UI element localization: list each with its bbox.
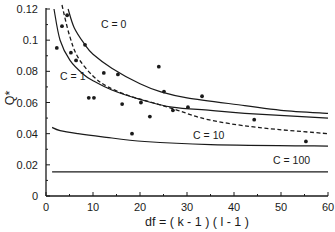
chart: C = 0C = 1C = 10C = 100 0102030405060 00… bbox=[0, 0, 335, 232]
x-tick-label: 30 bbox=[181, 201, 193, 213]
data-point bbox=[102, 71, 106, 75]
x-tick-label: 10 bbox=[87, 201, 99, 213]
x-tick-label: 60 bbox=[322, 201, 334, 213]
y-axis-title: Q* bbox=[3, 91, 17, 106]
plot-area: C = 0C = 1C = 10C = 100 bbox=[52, 5, 328, 172]
data-point bbox=[130, 132, 134, 136]
data-point bbox=[139, 101, 143, 105]
curve-label-c-1: C = 1 bbox=[60, 70, 86, 82]
data-point bbox=[148, 115, 152, 119]
data-point bbox=[120, 102, 124, 106]
y-tick-label: 0.08 bbox=[17, 65, 38, 77]
x-tick-label: 50 bbox=[275, 201, 287, 213]
y-tick-label: 0.04 bbox=[17, 128, 38, 140]
curve-label-c-0: C = 0 bbox=[101, 18, 127, 30]
y-axis: 00.020.040.060.080.10.12 bbox=[17, 3, 50, 202]
x-tick-label: 0 bbox=[43, 201, 49, 213]
x-axis-title: df = ( k - 1 ) ( l - 1 ) bbox=[145, 215, 249, 229]
data-point bbox=[87, 96, 91, 100]
data-point bbox=[60, 24, 64, 28]
data-points bbox=[55, 13, 308, 143]
data-point bbox=[92, 96, 96, 100]
curve-label-c-10: C = 10 bbox=[193, 129, 224, 141]
data-point bbox=[65, 13, 69, 17]
y-tick-label: 0.12 bbox=[17, 3, 38, 15]
data-point bbox=[55, 46, 59, 50]
y-tick-label: 0.06 bbox=[17, 97, 38, 109]
y-tick-label: 0.1 bbox=[23, 34, 38, 46]
y-tick-label: 0 bbox=[32, 190, 38, 202]
x-axis: 0102030405060 bbox=[43, 192, 334, 213]
y-tick-label: 0.02 bbox=[17, 159, 38, 171]
data-point bbox=[69, 51, 73, 55]
data-point bbox=[252, 118, 256, 122]
data-point bbox=[74, 59, 78, 63]
x-tick-label: 40 bbox=[228, 201, 240, 213]
curve-label-c-100: C = 100 bbox=[273, 154, 310, 166]
data-point bbox=[304, 140, 308, 144]
data-point bbox=[200, 94, 204, 98]
x-tick-label: 20 bbox=[134, 201, 146, 213]
curve-c-1 bbox=[54, 9, 328, 118]
data-point bbox=[157, 65, 161, 69]
